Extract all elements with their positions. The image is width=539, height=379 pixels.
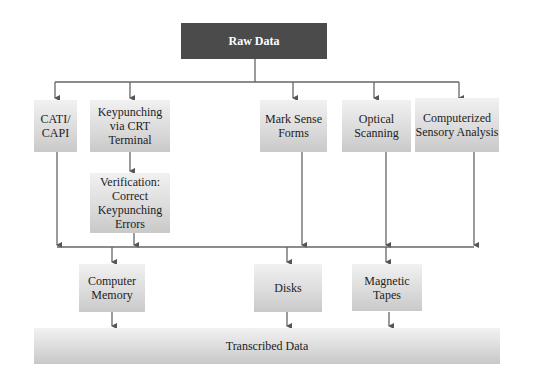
method-optical-label: Optical Scanning	[342, 112, 411, 140]
method-keypunch-box: Keypunching via CRT Terminal	[90, 100, 170, 152]
storage-memory-label: Computer Memory	[79, 274, 145, 302]
method-marksense-box: Mark Sense Forms	[260, 100, 327, 152]
method-optical-box: Optical Scanning	[342, 100, 411, 152]
storage-tapes-label: Magnetic Tapes	[352, 274, 422, 302]
verification-box: Verification: Correct Keypunching Errors	[90, 173, 170, 233]
storage-disks-label: Disks	[274, 281, 301, 295]
method-marksense-label: Mark Sense Forms	[260, 112, 327, 140]
transcribed-data-band: Transcribed Data	[34, 328, 500, 364]
method-keypunch-label: Keypunching via CRT Terminal	[90, 105, 170, 147]
method-sensory-box: Computerized Sensory Analysis	[415, 98, 499, 152]
verification-label: Verification: Correct Keypunching Errors	[90, 175, 170, 231]
method-cati-box: CATI/ CAPI	[34, 100, 77, 152]
storage-disks-box: Disks	[254, 264, 322, 312]
raw-data-box: Raw Data	[181, 23, 327, 59]
transcribed-data-label: Transcribed Data	[226, 339, 309, 354]
method-cati-label: CATI/ CAPI	[34, 112, 77, 140]
raw-data-label: Raw Data	[229, 34, 280, 48]
method-sensory-label: Computerized Sensory Analysis	[415, 111, 499, 139]
storage-tapes-box: Magnetic Tapes	[352, 264, 422, 311]
storage-memory-box: Computer Memory	[79, 264, 145, 312]
